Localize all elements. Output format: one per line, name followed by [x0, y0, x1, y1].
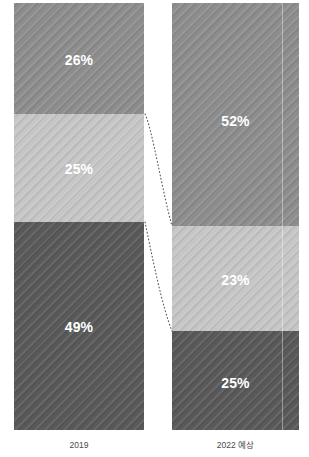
bar-2019-segment-bottom-label: 49%	[14, 320, 144, 334]
bar-2022-segment-middle-label: 23%	[172, 273, 299, 287]
category-label-2019: 2019	[14, 441, 144, 450]
bar-2019[interactable]: 26% 25% 49%	[14, 3, 144, 430]
connector-upper-line	[145, 114, 172, 226]
stacked-bar-chart: 26% 25% 49% 52% 23% 25% 2019 2022 예상	[0, 0, 309, 457]
category-label-2022: 2022 예상	[172, 441, 299, 450]
connector-lower-line	[145, 222, 172, 331]
bar-2019-segment-middle-label: 25%	[14, 162, 144, 176]
bar-2022-segment-top-label: 52%	[172, 114, 299, 128]
bar-2019-segment-top-label: 26%	[14, 53, 144, 67]
bar-2022-segment-bottom-label: 25%	[172, 376, 299, 390]
bar-2022[interactable]: 52% 23% 25%	[172, 3, 299, 430]
